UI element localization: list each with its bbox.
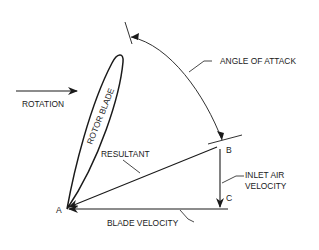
- blade-velocity-leader: [180, 210, 194, 222]
- resultant-leader: [123, 160, 140, 173]
- rotation-label: ROTATION: [22, 99, 64, 109]
- inlet-air-label-line1: INLET AIR: [245, 170, 284, 180]
- angle-of-attack-label: ANGLE OF ATTACK: [220, 56, 296, 66]
- angle-of-attack-leader: [189, 61, 212, 72]
- point-a-label: A: [56, 205, 62, 215]
- point-b-label: B: [226, 145, 232, 155]
- inlet-air-leader: [222, 176, 244, 183]
- angle-of-attack-arc: [125, 22, 242, 144]
- blade-velocity-label: BLADE VELOCITY: [107, 218, 179, 228]
- angle-of-attack-diagram: ROTATION ROTOR BLADE ANGLE OF ATTACK RES…: [0, 0, 319, 250]
- point-c-label: C: [226, 193, 232, 203]
- resultant-label: RESULTANT: [101, 149, 150, 159]
- inlet-air-label-line2: VELOCITY: [245, 181, 287, 191]
